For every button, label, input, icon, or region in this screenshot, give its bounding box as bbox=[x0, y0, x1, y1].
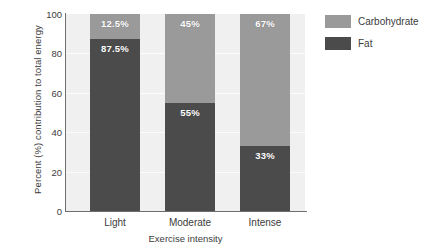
bar-moderate-fat-label: 55% bbox=[165, 107, 215, 118]
bar-moderate[interactable]: 45% 55% bbox=[165, 14, 215, 211]
plot-area: 12.5% 87.5% 45% 55% 67% 33% bbox=[66, 14, 305, 211]
y-axis-tick-labels: 100 80 60 40 20 0 bbox=[36, 0, 62, 249]
y-tick-80: 80 bbox=[36, 49, 62, 59]
x-axis-line bbox=[65, 211, 307, 212]
legend-swatch-carbohydrate-icon bbox=[325, 15, 351, 28]
bar-light-segment-carbohydrate[interactable]: 12.5% bbox=[90, 14, 140, 39]
legend-item-fat[interactable]: Fat bbox=[325, 37, 372, 50]
x-tick-intense: Intense bbox=[220, 217, 310, 228]
legend-label-carbohydrate: Carbohydrate bbox=[358, 16, 419, 27]
y-tick-100: 100 bbox=[36, 10, 62, 20]
legend-item-carbohydrate[interactable]: Carbohydrate bbox=[325, 15, 419, 28]
bar-light-segment-fat[interactable]: 87.5% bbox=[90, 39, 140, 211]
bar-light-fat-label: 87.5% bbox=[90, 43, 140, 54]
bar-light-carbohydrate-label: 12.5% bbox=[90, 18, 140, 29]
x-axis-title: Exercise intensity bbox=[66, 233, 305, 244]
legend-swatch-fat-icon bbox=[325, 37, 351, 50]
bar-light[interactable]: 12.5% 87.5% bbox=[90, 14, 140, 211]
bar-intense-segment-carbohydrate[interactable]: 67% bbox=[240, 14, 290, 146]
bar-intense[interactable]: 67% 33% bbox=[240, 14, 290, 211]
bar-intense-fat-label: 33% bbox=[240, 150, 290, 161]
y-tick-40: 40 bbox=[36, 128, 62, 138]
bar-moderate-carbohydrate-label: 45% bbox=[165, 18, 215, 29]
y-tick-0: 0 bbox=[36, 207, 62, 217]
stacked-bar-chart: Percent (%) contribution to total energy… bbox=[0, 0, 432, 249]
bar-moderate-segment-fat[interactable]: 55% bbox=[165, 103, 215, 211]
bar-intense-segment-fat[interactable]: 33% bbox=[240, 146, 290, 211]
bar-intense-carbohydrate-label: 67% bbox=[240, 18, 290, 29]
legend-label-fat: Fat bbox=[358, 38, 372, 49]
y-tick-20: 20 bbox=[36, 168, 62, 178]
y-tick-60: 60 bbox=[36, 89, 62, 99]
bar-moderate-segment-carbohydrate[interactable]: 45% bbox=[165, 14, 215, 103]
